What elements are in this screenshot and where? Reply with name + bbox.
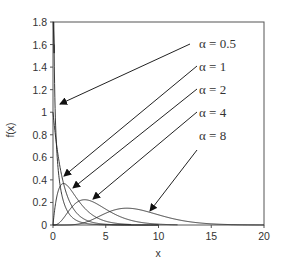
y-tick-label: 0.8 — [32, 129, 47, 141]
density-curves — [53, 22, 264, 225]
density-curve — [53, 200, 177, 225]
x-axis: 05101520 — [50, 225, 270, 242]
y-tick-label: 1.8 — [32, 16, 47, 28]
density-curve — [53, 112, 159, 225]
x-tick-label: 10 — [153, 230, 165, 242]
y-tick-label: 0.4 — [32, 174, 47, 186]
annotation-arrow — [93, 112, 197, 199]
curve-label: α = 4 — [199, 105, 227, 120]
curve-label: α = 2 — [199, 82, 226, 97]
x-axis-label: x — [155, 247, 161, 259]
y-axis: 00.20.40.60.811.21.41.61.8 — [32, 16, 53, 231]
y-tick-label: 0.6 — [32, 151, 47, 163]
curve-annotations: α = 0.5α = 1α = 2α = 4α = 8 — [60, 36, 236, 211]
x-tick-label: 0 — [50, 230, 56, 242]
curve-label: α = 1 — [199, 59, 226, 74]
y-tick-label: 1.2 — [32, 84, 47, 96]
curve-label: α = 0.5 — [199, 36, 236, 51]
annotation-arrow — [60, 44, 190, 104]
y-tick-label: 1.4 — [32, 61, 47, 73]
density-curve — [53, 208, 264, 225]
annotation-arrow — [64, 66, 197, 176]
y-tick-label: 0 — [41, 219, 47, 231]
density-curve — [53, 22, 158, 225]
x-tick-label: 15 — [205, 230, 217, 242]
annotation-arrow — [150, 150, 197, 211]
plot-area — [53, 22, 264, 225]
x-tick-label: 20 — [258, 230, 270, 242]
curve-label: α = 8 — [199, 128, 226, 143]
y-tick-label: 0.2 — [32, 196, 47, 208]
y-tick-label: 1.6 — [32, 39, 47, 51]
y-tick-label: 1 — [41, 106, 47, 118]
gamma-density-chart: 00.20.40.60.811.21.41.61.8 05101520 f(x)… — [0, 0, 281, 276]
y-axis-label: f(x) — [4, 122, 16, 137]
x-tick-label: 5 — [103, 230, 109, 242]
annotation-arrow — [73, 89, 197, 188]
